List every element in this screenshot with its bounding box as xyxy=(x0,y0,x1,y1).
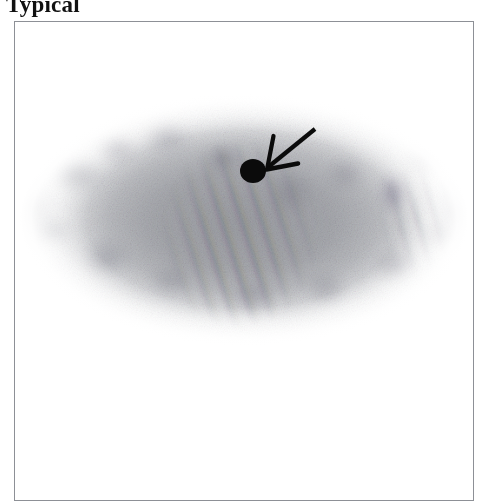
page-title: Typical xyxy=(6,0,80,17)
scan-image-frame xyxy=(14,21,474,501)
black-marker-dot xyxy=(240,159,266,183)
annotation-layer xyxy=(15,22,473,402)
scan-image xyxy=(15,22,473,402)
